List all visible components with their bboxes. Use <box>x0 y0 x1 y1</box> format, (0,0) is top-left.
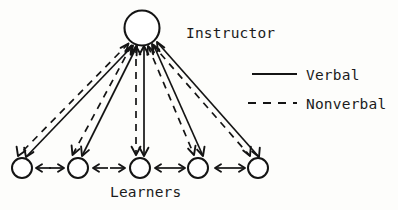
edge-instructor-learner-3 <box>132 46 149 156</box>
legend-label-nonverbal: Nonverbal <box>306 96 386 112</box>
communication-flow-diagram: Instructor Learners Verbal Nonverbal <box>0 0 398 210</box>
legend: Verbal Nonverbal <box>248 67 386 112</box>
node-learner-3[interactable] <box>130 158 150 178</box>
peer-arrow-left-4 <box>215 164 230 172</box>
legend-label-verbal: Verbal <box>306 67 360 83</box>
instructor-label: Instructor <box>186 25 275 41</box>
node-learner-2[interactable] <box>68 158 88 178</box>
edge-instructor-learner-5 <box>152 42 260 157</box>
node-instructor[interactable] <box>125 11 160 46</box>
peer-arrow-left-1 <box>36 164 51 172</box>
learners-label: Learners <box>110 184 181 200</box>
node-learner-4[interactable] <box>188 158 208 178</box>
arrowhead-down-verbal-5 <box>252 148 260 157</box>
legend-item-nonverbal: Nonverbal <box>248 96 386 112</box>
peer-arrow-left-2 <box>93 164 108 172</box>
edge-instructor-learner-2 <box>72 46 137 157</box>
edge-instructor-learner-4 <box>147 45 204 156</box>
arrowhead-down-nonverbal-4 <box>188 146 195 155</box>
peer-arrow-right-1 <box>49 164 64 172</box>
edge-verbal-learner-5 <box>157 42 259 157</box>
peer-arrow-right-4 <box>230 164 245 172</box>
legend-item-verbal: Verbal <box>252 67 360 83</box>
diagram-canvas: Instructor Learners Verbal Nonverbal <box>0 0 398 210</box>
edge-verbal-learner-4 <box>154 45 204 156</box>
edge-nonverbal-learner-1 <box>18 44 129 157</box>
node-learner-5[interactable] <box>248 158 268 178</box>
peer-arrow-right-2 <box>110 164 125 172</box>
peer-arrow-right-3 <box>170 164 185 172</box>
edge-instructor-learner-1 <box>17 44 133 158</box>
edge-nonverbal-learner-4 <box>148 46 194 155</box>
node-learner-1[interactable] <box>12 158 32 178</box>
edge-nonverbal-learner-5 <box>152 44 250 156</box>
peer-arrow-left-3 <box>155 164 170 172</box>
